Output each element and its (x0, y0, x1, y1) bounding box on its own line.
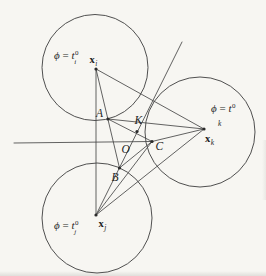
label-phi-k: ϕ = t0 (211, 102, 236, 115)
label-K: K (134, 114, 144, 126)
scanned-figure-page: AKOCBxixjxkϕ = t0iϕ = t0kϕ = t0j (0, 0, 266, 276)
label-phi-i: ϕ = t0i (54, 49, 79, 67)
scan-artifact-bottom (0, 271, 266, 276)
support-circle-j (42, 163, 152, 273)
ray-xj-B-K (96, 42, 182, 215)
label-x-k: xk (205, 133, 215, 147)
scan-artifact-right (262, 140, 266, 200)
label-C: C (156, 140, 164, 152)
point-B (118, 166, 121, 169)
label-x-i: xi (90, 54, 98, 68)
label-B: B (112, 171, 119, 183)
point-A (106, 117, 109, 120)
label-A: A (95, 107, 104, 119)
node-xj (94, 213, 97, 216)
point-K (135, 130, 138, 133)
label-x-j: xj (99, 218, 107, 232)
label-O: O (122, 143, 131, 155)
label-phi-k-sub: k (218, 119, 222, 128)
line-A-xk (108, 119, 204, 129)
front-line-horizontal (14, 142, 152, 144)
geometry-figure: AKOCBxixjxkϕ = t0iϕ = t0kϕ = t0j (0, 0, 266, 276)
node-xk (202, 127, 205, 130)
label-phi-j: ϕ = t0j (54, 219, 79, 237)
point-C (150, 140, 153, 143)
